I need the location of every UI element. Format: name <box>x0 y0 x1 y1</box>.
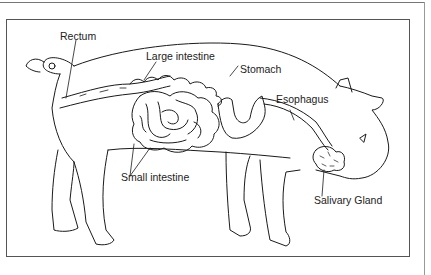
pig-rump-outline <box>52 74 74 162</box>
leader-stomach <box>230 66 238 76</box>
pig-front-leg-left <box>226 152 251 236</box>
label-esophagus: Esophagus <box>276 93 329 105</box>
leader-rectum <box>66 40 76 98</box>
label-salivary-gland: Salivary Gland <box>314 194 382 206</box>
pig-eye-icon <box>360 134 366 142</box>
label-stomach: Stomach <box>240 63 281 75</box>
label-large-intestine: Large intestine <box>146 50 215 62</box>
stomach-organ <box>218 96 265 138</box>
pig-front-leg-right <box>260 160 300 246</box>
pig-hind-leg-right <box>74 150 114 245</box>
salivary-gland-organ <box>313 146 345 171</box>
small-intestine-coils <box>132 92 219 153</box>
pig-belly-outline <box>108 148 290 158</box>
tail-curl-icon <box>49 63 55 69</box>
label-small-intestine: Small intestine <box>121 171 189 183</box>
pig-tail-icon <box>26 58 74 74</box>
label-rectum: Rectum <box>60 30 96 42</box>
rectum-tube <box>62 76 170 98</box>
leader-salivary-gland <box>322 170 324 196</box>
leader-esophagus <box>290 110 294 120</box>
